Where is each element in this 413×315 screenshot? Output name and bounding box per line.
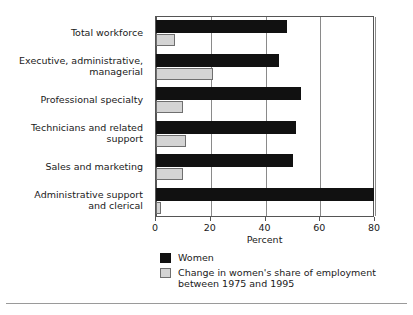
category-label: Total workforce — [0, 27, 143, 39]
legend-item: Change in women's share of employment be… — [160, 267, 410, 290]
bar-women — [156, 188, 374, 201]
x-tick-label: 40 — [258, 222, 270, 233]
bar-women — [156, 20, 287, 33]
bar-women — [156, 154, 293, 167]
bar-row — [156, 118, 373, 152]
legend-label: Women — [178, 252, 214, 264]
legend-item: Women — [160, 252, 410, 264]
bar-change — [156, 34, 175, 46]
bar-row — [156, 185, 373, 219]
chart-figure: Total workforceExecutive, administrative… — [0, 0, 413, 315]
plot-area — [155, 16, 374, 217]
chart-legend: WomenChange in women's share of employme… — [160, 252, 410, 293]
bottom-divider — [6, 303, 407, 304]
bar-row — [156, 84, 373, 118]
x-tick-mark — [319, 217, 320, 221]
bar-row — [156, 17, 373, 51]
bar-row — [156, 151, 373, 185]
category-label: Professional specialty — [0, 94, 143, 106]
gridline-80 — [375, 17, 376, 216]
x-tick-mark — [374, 217, 375, 221]
x-tick-label: 20 — [204, 222, 216, 233]
bar-change — [156, 101, 183, 113]
x-axis-title: Percent — [155, 234, 374, 245]
bar-row — [156, 51, 373, 85]
bar-women — [156, 121, 296, 134]
x-tick-mark — [265, 217, 266, 221]
bar-change — [156, 168, 183, 180]
black-square-swatch — [160, 253, 171, 263]
x-tick-label: 80 — [368, 222, 380, 233]
category-label: Technicians and related support — [0, 122, 143, 145]
gray-square-swatch — [160, 268, 171, 278]
x-tick-label: 0 — [152, 222, 158, 233]
category-axis-labels: Total workforceExecutive, administrative… — [0, 16, 150, 217]
bar-change — [156, 68, 213, 80]
x-tick-label: 60 — [313, 222, 325, 233]
bar-women — [156, 87, 301, 100]
category-label: Sales and marketing — [0, 161, 143, 173]
category-label: Executive, administrative, managerial — [0, 55, 143, 78]
bar-change — [156, 202, 161, 214]
category-label: Administrative support and clerical — [0, 189, 143, 212]
bar-change — [156, 135, 186, 147]
x-tick-mark — [155, 217, 156, 221]
bar-women — [156, 54, 279, 67]
legend-label: Change in women's share of employment be… — [178, 267, 376, 290]
x-tick-mark — [210, 217, 211, 221]
